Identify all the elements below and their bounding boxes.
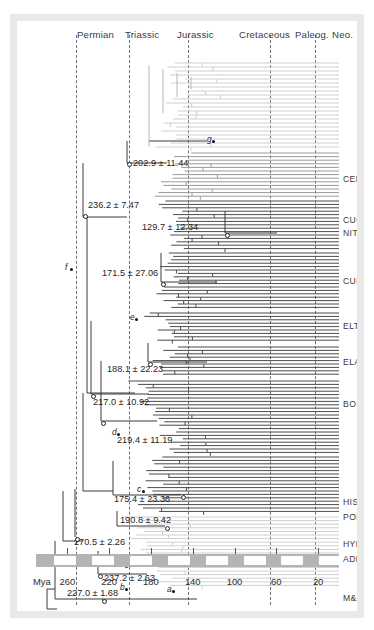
figure-root: PermianTriassicJurassicCretaceousPaleog.… (0, 0, 374, 630)
node-dot-a (172, 590, 175, 593)
calibration-node-marker-n3 (225, 233, 230, 238)
clade-label-cur: CUR (343, 276, 357, 286)
node-letter-c: c (137, 484, 141, 494)
axis-tick-label-60: 60 (271, 576, 281, 587)
calibration-node-marker-n1 (127, 162, 132, 167)
node-age-n7: 219.4 ± 11.19 (117, 435, 172, 445)
calibration-node-marker-n6 (91, 394, 96, 399)
node-age-n8: 175.4 ± 23.36 (114, 494, 170, 504)
axis-segment-5 (244, 556, 266, 565)
axis-unit-label: Mya (33, 576, 51, 587)
calibration-node-marker-n9 (165, 526, 170, 531)
node-age-n13: 227.0 ± 1.68 (67, 588, 118, 598)
node-age-n3: 129.7 ± 12.34 (142, 222, 198, 232)
axis-tick-label-180: 180 (143, 576, 159, 587)
clade-label-ma: M&A (343, 593, 357, 603)
axis-tickmark-220 (109, 548, 110, 554)
clade-label-cuc: CUC (343, 215, 357, 225)
axis-segment-0 (54, 556, 76, 565)
axis-tickmark-140 (193, 548, 194, 554)
calibration-node-marker-n2 (83, 214, 88, 219)
phylogeny-plot: PermianTriassicJurassicCretaceousPaleog.… (17, 21, 357, 611)
node-age-n9: 190.8 ± 9.42 (120, 515, 171, 525)
node-age-n10: 270.5 ± 2.26 (74, 537, 125, 547)
node-letter-g: g (207, 134, 212, 144)
node-letter-b: b (120, 582, 125, 592)
node-letter-e: e (130, 312, 135, 322)
clade-label-hyd: HYD (343, 539, 357, 549)
node-dot-b (125, 588, 128, 591)
axis-tick-label-220: 220 (101, 576, 117, 587)
node-letter-f: f (65, 262, 67, 272)
axis-tick-label-260: 260 (60, 576, 76, 587)
axis-segment-4 (206, 556, 228, 565)
clade-label-his: HIS (343, 497, 357, 507)
calibration-node-marker-n13 (102, 599, 107, 604)
calibration-node-marker-n7 (101, 421, 106, 426)
axis-tickmark-60 (276, 548, 277, 554)
axis-tick-label-100: 100 (227, 576, 243, 587)
node-dot-g (212, 140, 215, 143)
node-age-n6: 217.0 ± 10.92 (93, 397, 149, 407)
clade-label-nit: NIT (343, 228, 357, 238)
calibration-node-marker-n10 (75, 537, 80, 542)
node-dot-d (117, 433, 120, 436)
node-age-n4: 171.5 ± 27.06 (102, 268, 158, 278)
clade-label-elt: ELT (343, 321, 357, 331)
axis-tickmark-180 (151, 548, 152, 554)
calibration-node-marker-n4 (161, 282, 166, 287)
axis-tickmark-260 (67, 548, 68, 554)
clade-label-ade: ADE (343, 554, 357, 564)
clade-label-bos: BOS (343, 399, 357, 409)
node-age-n1: 202.9 ± 11.44 (133, 158, 188, 168)
axis-tick-label-140: 140 (185, 576, 201, 587)
axis-segment-3 (168, 556, 190, 565)
node-dot-f (70, 268, 73, 271)
calibration-node-marker-n5 (148, 362, 153, 367)
calibration-node-marker-n8 (181, 495, 186, 500)
axis-tickmark-20 (318, 548, 319, 554)
axis-tick-label-20: 20 (313, 576, 323, 587)
time-axis-bar (36, 554, 339, 567)
axis-tickmark-100 (235, 548, 236, 554)
axis-segment-1 (92, 556, 114, 565)
axis-segment-2 (130, 556, 152, 565)
node-age-n5: 188.1 ± 22.23 (107, 364, 163, 374)
clade-label-pol: POL (343, 512, 357, 522)
node-letter-d: d (112, 427, 117, 437)
axis-segment-7 (319, 556, 341, 565)
clade-label-cer: CER (343, 174, 357, 184)
axis-segment-6 (281, 556, 303, 565)
clade-label-ela: ELA (343, 357, 357, 367)
tree-graphic (17, 21, 357, 611)
node-age-n2: 236.2 ± 7.47 (88, 200, 139, 210)
node-dot-c (142, 490, 145, 493)
node-letter-a: a (167, 584, 172, 594)
node-dot-e (135, 318, 138, 321)
